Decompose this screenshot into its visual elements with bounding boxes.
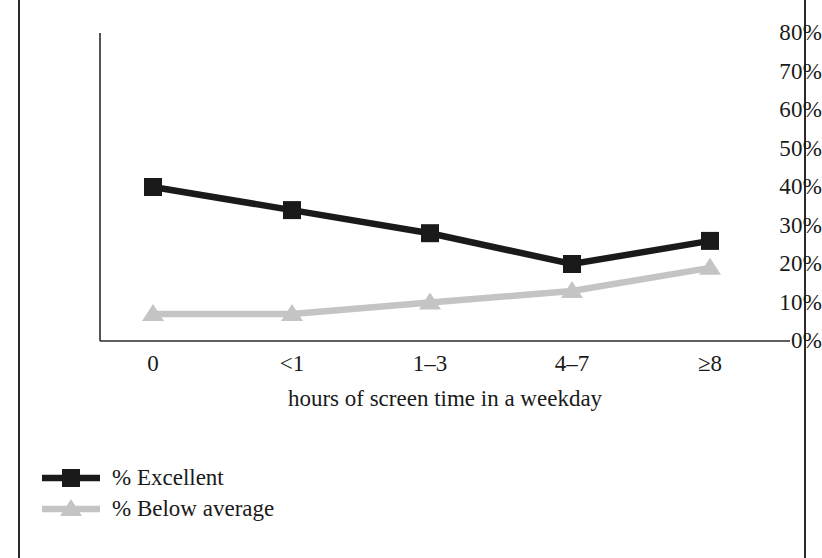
series-below-average (142, 258, 721, 321)
legend-item-label: % Excellent (112, 466, 224, 489)
legend-key-triangle-icon (40, 496, 102, 522)
legend-item[interactable]: % Below average (40, 493, 460, 524)
chart-legend: % Excellent% Below average (40, 462, 460, 524)
data-point-marker-square (283, 201, 301, 219)
data-point-marker-square (144, 178, 162, 196)
legend-key-square-icon (40, 465, 102, 491)
series-excellent (144, 178, 719, 273)
legend-item-label: % Below average (112, 497, 274, 520)
x-axis-tick-label: 1–3 (370, 352, 490, 375)
legend-item[interactable]: % Excellent (40, 462, 460, 493)
x-axis-title: hours of screen time in a weekday (100, 386, 790, 412)
chart-figure: 0%10%20%30%40%50%60%70%80% 0<11–34–7≥8 h… (0, 0, 822, 558)
x-axis-tick-label: 0 (93, 352, 213, 375)
data-point-marker-square (701, 232, 719, 250)
x-axis-tick-label: <1 (232, 352, 352, 375)
data-point-marker-square (563, 255, 581, 273)
x-axis-tick-label: ≥8 (650, 352, 770, 375)
data-point-marker-square (421, 224, 439, 242)
x-axis-tick-label: 4–7 (512, 352, 632, 375)
